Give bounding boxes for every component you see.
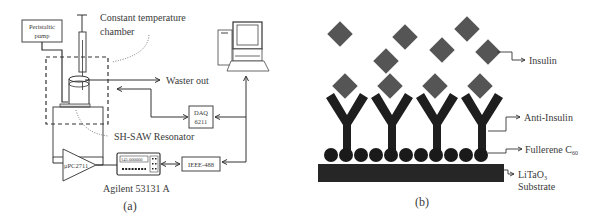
insulin-diamond xyxy=(373,48,398,73)
fullerene-label: Fullerene C60 xyxy=(525,144,578,156)
fullerene-sphere xyxy=(474,148,488,162)
chamber-pointer xyxy=(112,35,149,62)
caption-b: (b) xyxy=(415,195,429,209)
insulin-diamond xyxy=(429,37,454,62)
fullerene-sphere xyxy=(429,148,443,162)
waste-label: Waster out xyxy=(166,75,209,86)
fullerene-sphere xyxy=(339,148,353,162)
substrate-label-line1: LiTaO3 xyxy=(518,169,547,181)
substrate-label-line2: Substrate xyxy=(518,181,556,192)
fullerene-sphere xyxy=(399,148,413,162)
insulin-diamond xyxy=(467,73,492,98)
panel-a: Peristaltic pump Waster out Constant tem… xyxy=(22,12,269,213)
amplifier: μPC2711 xyxy=(63,149,96,181)
chamber-label-line2: chamber xyxy=(100,26,135,37)
fullerene-sphere xyxy=(414,148,428,162)
insulin-diamond xyxy=(475,39,500,64)
pump-label-line2: pump xyxy=(35,32,50,39)
panel-b: Insulin Anti-Insulin Fullerene C60 LiTaO… xyxy=(318,16,578,209)
frequency-counter: 145.000000 xyxy=(117,153,160,175)
antibody-y xyxy=(416,93,458,155)
resonator-label: SH-SAW Resonator xyxy=(114,131,195,142)
caption-a: (a) xyxy=(123,199,136,213)
counter-display: 145.000000 xyxy=(121,157,143,162)
antibody-y xyxy=(371,93,413,155)
pump-label-line1: Peristaltic xyxy=(29,23,55,30)
antibody-y xyxy=(326,93,368,155)
insulin-label: Insulin xyxy=(529,55,557,66)
constant-temperature-chamber xyxy=(46,57,108,124)
fullerene-sphere xyxy=(459,148,473,162)
daq-label-line2: 6211 xyxy=(195,118,208,125)
antibody-y xyxy=(461,93,503,155)
insulin-diamond xyxy=(454,16,479,41)
ieee-488-interface: IEEE-488 xyxy=(182,157,220,171)
fullerene-layer xyxy=(324,148,488,162)
counter-name-label: Agilent 53131 A xyxy=(103,183,170,194)
computer-icon xyxy=(218,22,269,71)
peristaltic-pump: Peristaltic pump xyxy=(22,20,62,42)
insulin-diamond xyxy=(377,73,402,98)
amplifier-label: μPC2711 xyxy=(64,162,88,169)
fullerene-sphere xyxy=(354,148,368,162)
pump-tubing xyxy=(42,42,68,102)
fullerene-sphere xyxy=(384,148,398,162)
resonator-housing xyxy=(53,107,103,157)
insulin-diamond xyxy=(327,21,352,46)
anti-insulin-antibodies xyxy=(326,93,503,155)
chamber-label-line1: Constant temperature xyxy=(100,12,186,23)
figure-canvas: Peristaltic pump Waster out Constant tem… xyxy=(0,0,598,222)
daq-6211: DAQ 6211 xyxy=(189,106,213,128)
daq-label-line1: DAQ xyxy=(194,109,208,116)
insulin-diamond xyxy=(392,24,417,49)
insulin-diamond xyxy=(332,73,357,98)
insulin-free xyxy=(327,16,500,73)
litao3-substrate xyxy=(318,164,504,182)
anti-insulin-label: Anti-Insulin xyxy=(524,112,573,123)
fullerene-sphere xyxy=(444,148,458,162)
daq-chamber-link xyxy=(117,89,187,117)
fullerene-sphere xyxy=(369,148,383,162)
ieee-label: IEEE-488 xyxy=(188,161,214,168)
insulin-diamond xyxy=(422,73,447,98)
fullerene-sphere xyxy=(324,148,338,162)
